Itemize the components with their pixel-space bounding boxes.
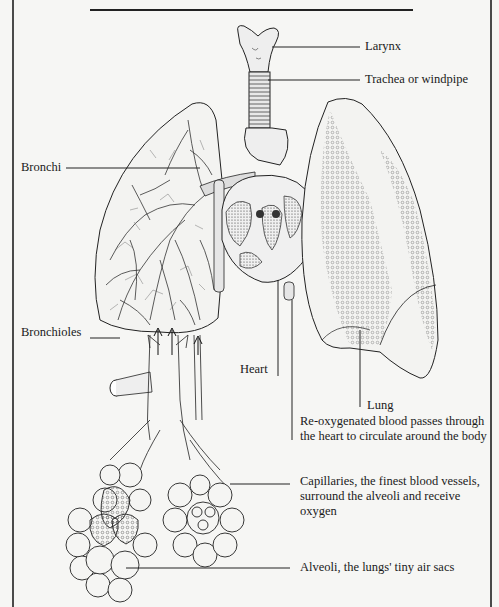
label-bronchioles: Bronchioles bbox=[21, 325, 81, 340]
label-lung: Lung bbox=[367, 398, 393, 413]
label-capillaries: Capillaries, the finest blood vessels, s… bbox=[300, 474, 490, 519]
label-heart: Heart bbox=[240, 362, 268, 377]
larynx-drawing bbox=[238, 26, 279, 72]
trachea-drawing bbox=[249, 72, 270, 128]
label-bronchi: Bronchi bbox=[21, 160, 61, 175]
label-alveoli: Alveoli, the lungs' tiny air sacs bbox=[300, 560, 454, 575]
alveoli-drawing bbox=[66, 463, 244, 602]
label-trachea: Trachea or windpipe bbox=[365, 72, 468, 87]
label-larynx: Larynx bbox=[365, 39, 401, 54]
heart-drawing bbox=[222, 128, 312, 300]
right-lung-drawing bbox=[302, 98, 438, 378]
label-blood: Re-oxygenated blood passes through the h… bbox=[300, 414, 490, 444]
